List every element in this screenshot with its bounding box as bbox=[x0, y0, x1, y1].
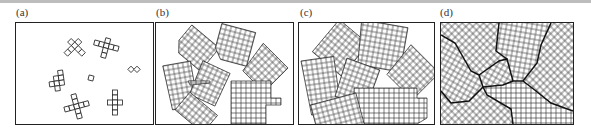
panel-a bbox=[15, 22, 154, 125]
nuclei-drawing bbox=[16, 23, 153, 124]
grain-structure-drawing bbox=[441, 23, 573, 124]
panel-c-label: (c) bbox=[300, 6, 312, 18]
panel-c bbox=[298, 22, 435, 125]
impinging-crystals-drawing bbox=[299, 23, 434, 124]
panel-d-label: (d) bbox=[440, 6, 453, 18]
top-rule bbox=[0, 0, 591, 3]
panel-b bbox=[155, 22, 294, 125]
panel-d bbox=[440, 22, 574, 125]
growing-crystals-drawing bbox=[156, 23, 293, 124]
panel-b-label: (b) bbox=[156, 6, 169, 18]
panel-a-label: (a) bbox=[16, 6, 28, 18]
